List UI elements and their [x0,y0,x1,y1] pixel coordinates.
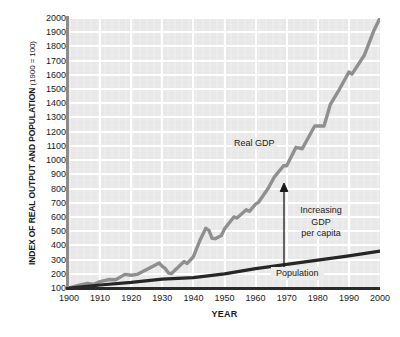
annotation-real-gdp: Real GDP [232,137,277,150]
x-axis-tick-1970: 1970 [270,293,304,303]
y-axis-tick-2000: 2000 [30,14,66,23]
x-axis-title: YEAR [69,309,380,319]
x-axis-spine [66,287,380,290]
y-axis-tick-1200: 1200 [30,127,66,136]
y-axis-tick-1700: 1700 [30,56,66,65]
real-gdp-line [69,18,380,288]
y-axis-tick-1600: 1600 [30,70,66,79]
annotation-line-1: Increasing [300,205,342,215]
y-axis-tick-1300: 1300 [30,113,66,122]
x-axis-tick-1930: 1930 [145,293,179,303]
x-axis-tick-labels: 1900191019201930194019501960197019801990… [69,293,380,307]
x-axis-tick-2000: 2000 [363,293,397,303]
y-axis-tick-1100: 1100 [30,141,66,150]
population-line [69,251,380,288]
annotation-line-2: GDP [311,217,331,227]
y-axis-tick-1500: 1500 [30,85,66,94]
series-lines [69,18,380,288]
y-axis-tick-300: 300 [30,255,66,264]
y-axis-tick-700: 700 [30,198,66,207]
x-axis-tick-1950: 1950 [208,293,242,303]
y-axis-tick-1900: 1900 [30,28,66,37]
annotation-population: Population [271,267,324,280]
y-axis-tick-600: 600 [30,212,66,221]
y-axis-tick-800: 800 [30,184,66,193]
y-axis-tick-500: 500 [30,227,66,236]
y-axis-tick-100: 100 [30,284,66,293]
x-axis-tick-1900: 1900 [52,293,86,303]
plot-area [69,18,380,288]
y-axis-tick-900: 900 [30,170,66,179]
y-axis-tick-labels: 2000190018001700160015001400130012001100… [30,18,66,288]
x-axis-tick-1980: 1980 [301,293,335,303]
x-axis-tick-1920: 1920 [114,293,148,303]
x-axis-tick-1940: 1940 [176,293,210,303]
x-axis-tick-1960: 1960 [239,293,273,303]
y-axis-tick-1000: 1000 [30,156,66,165]
x-axis-tick-1990: 1990 [332,293,366,303]
annotation-increasing-gdp-per-capita: Increasing GDP per capita [290,205,352,240]
y-axis-tick-400: 400 [30,241,66,250]
y-axis-tick-200: 200 [30,269,66,278]
annotation-line-3: per capita [301,228,341,238]
gdp-population-chart: INDEX OF REAL OUTPUT AND POPULATION (190… [0,0,400,337]
y-axis-tick-1400: 1400 [30,99,66,108]
x-axis-tick-1910: 1910 [83,293,117,303]
y-axis-tick-1800: 1800 [30,42,66,51]
